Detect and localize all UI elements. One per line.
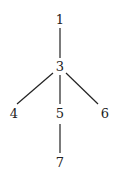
node-4: 4 — [10, 106, 18, 121]
node-3: 3 — [56, 59, 64, 74]
node-6: 6 — [101, 106, 109, 121]
node-1: 1 — [56, 12, 64, 27]
edge-3-4 — [17, 73, 53, 104]
tree-diagram: 1 3 4 5 6 7 — [0, 0, 119, 179]
edge-3-6 — [66, 73, 98, 104]
node-7: 7 — [56, 155, 64, 170]
node-5: 5 — [56, 106, 64, 121]
